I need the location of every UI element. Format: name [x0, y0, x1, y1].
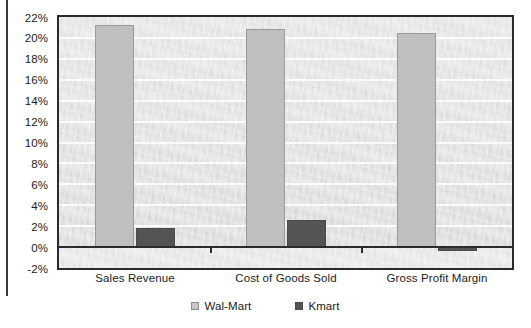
y-axis-tick-label: 14%	[0, 95, 48, 107]
y-axis-tick-label: 6%	[0, 179, 48, 191]
legend-label: Wal-Mart	[204, 300, 251, 312]
y-axis: 22%20%18%16%14%12%10%8%6%4%2%0%-2%	[0, 10, 52, 272]
category-label: Cost of Goods Sold	[235, 272, 337, 284]
y-axis-tick-label: 22%	[0, 12, 48, 24]
y-axis-tick-label: 18%	[0, 53, 48, 65]
bar-kmart-sales-revenue	[136, 228, 175, 247]
bar-kmart-cost-of-goods-sold	[287, 220, 326, 247]
chart-legend: Wal-MartKmart	[0, 297, 531, 315]
y-axis-tick-label: 12%	[0, 116, 48, 128]
category-label: Gross Profit Margin	[387, 272, 488, 284]
y-axis-tick-label: 0%	[0, 242, 48, 254]
y-axis-tick-label: 8%	[0, 158, 48, 170]
legend-swatch-icon	[295, 302, 303, 310]
plot-inner	[59, 17, 512, 268]
y-axis-tick-label: 10%	[0, 137, 48, 149]
bar-wal-mart-cost-of-goods-sold	[246, 29, 285, 248]
bar-wal-mart-gross-profit-margin	[397, 33, 436, 247]
zero-axis-line	[59, 246, 512, 248]
category-label: Sales Revenue	[95, 272, 174, 284]
category-tick	[361, 248, 363, 253]
y-axis-tick-label: 20%	[0, 32, 48, 44]
y-axis-tick-label: -2%	[0, 263, 48, 275]
bar-chart-figure: 22%20%18%16%14%12%10%8%6%4%2%0%-2% Sales…	[0, 0, 531, 328]
y-axis-tick-label: 4%	[0, 200, 48, 212]
legend-label: Kmart	[308, 300, 339, 312]
category-tick	[210, 248, 212, 253]
bar-wal-mart-sales-revenue	[95, 25, 134, 247]
legend-item-kmart: Kmart	[295, 300, 339, 312]
legend-item-wal-mart: Wal-Mart	[191, 300, 251, 312]
y-axis-tick-label: 16%	[0, 74, 48, 86]
y-axis-tick-label: 2%	[0, 221, 48, 233]
legend-swatch-icon	[191, 302, 199, 310]
x-axis-category-labels: Sales RevenueCost of Goods SoldGross Pro…	[57, 272, 514, 290]
plot-area	[57, 15, 514, 270]
